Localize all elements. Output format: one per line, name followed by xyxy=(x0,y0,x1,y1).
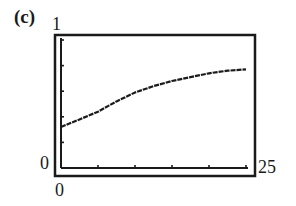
window-frame xyxy=(55,35,255,176)
data-curve xyxy=(61,69,246,127)
axes xyxy=(61,38,248,168)
tick-marks xyxy=(61,40,246,168)
plot-area xyxy=(0,0,296,206)
